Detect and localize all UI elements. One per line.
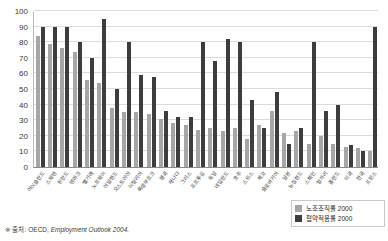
bar-union-density [85, 80, 89, 167]
x-axis-tick-label: 폴란드 [327, 170, 341, 185]
y-axis-tick-label: 90 [19, 24, 28, 32]
x-axis-tick-label: 미국 [342, 170, 353, 181]
bar-coverage-rate [139, 75, 143, 167]
bar-coverage-rate [78, 42, 82, 167]
bar-group [343, 12, 355, 167]
x-axis-tick-label: 프랑스 [364, 170, 378, 185]
bar-union-density [60, 48, 64, 167]
bar-coverage-rate [115, 89, 119, 167]
bar-coverage-rate [250, 100, 254, 167]
bar-coverage-rate [312, 42, 316, 167]
x-axis-tick-label: 아이슬란드 [25, 170, 45, 193]
source-note: ※출처:OECD, Employment Outlook 2004. [5, 226, 129, 234]
x-axis-tick-label: 체코 [256, 170, 267, 181]
x-axis-tick-label: 스위스 [241, 170, 255, 185]
plot-area [33, 12, 378, 168]
y-axis-tick-label: 30 [19, 117, 28, 125]
bar-group [195, 12, 207, 167]
bar-coverage-rate [53, 27, 57, 167]
bar-coverage-rate [336, 105, 340, 167]
bar-union-density [368, 151, 372, 167]
chart-legend: 노조조직률 2000 협약적용률 2000 [291, 200, 385, 227]
bar-group [356, 12, 368, 167]
bar-group [331, 12, 343, 167]
bar-coverage-rate [349, 145, 353, 167]
gridline [34, 10, 378, 11]
bar-group [97, 12, 109, 167]
bar-union-density [122, 112, 126, 167]
bar-coverage-rate [299, 128, 303, 167]
bar-union-density [245, 139, 249, 167]
x-axis-tick-label: 스페인 [303, 170, 317, 185]
y-axis-tick-label: 10 [19, 148, 28, 156]
bar-union-density [307, 144, 311, 167]
bar-group [245, 12, 257, 167]
bar-group [306, 12, 318, 167]
chart-figure: 0102030405060708090100 아이슬란드스웨덴핀란드덴마크벨기에… [0, 0, 388, 241]
bar-group [121, 12, 133, 167]
bar-group [183, 12, 195, 167]
bar-union-density [159, 119, 163, 167]
bar-union-density [36, 36, 40, 167]
bar-group [134, 12, 146, 167]
source-star-icon: ※ [5, 226, 10, 233]
bar-coverage-rate [41, 27, 45, 167]
bar-group [257, 12, 269, 167]
bar-union-density [331, 144, 335, 167]
bar-coverage-rate [226, 39, 230, 167]
bar-union-density [110, 108, 114, 167]
bar-coverage-rate [275, 92, 279, 167]
bar-coverage-rate [90, 58, 94, 167]
bar-series-container [34, 12, 378, 167]
bar-union-density [344, 147, 348, 167]
y-axis: 0102030405060708090100 [0, 12, 31, 168]
bar-group [368, 12, 380, 167]
bar-union-density [134, 112, 138, 167]
bar-union-density [270, 111, 274, 167]
bar-union-density [221, 131, 225, 167]
bar-group [146, 12, 158, 167]
legend-swatch-coverage-rate [295, 215, 302, 222]
y-axis-tick-label: 80 [19, 39, 28, 47]
bar-group [60, 12, 72, 167]
bar-union-density [48, 44, 52, 167]
bar-coverage-rate [201, 42, 205, 167]
bar-group [208, 12, 220, 167]
bar-coverage-rate [164, 111, 168, 167]
bar-union-density [319, 136, 323, 167]
x-axis-tick-label: 헝가리 [315, 170, 329, 185]
bar-union-density [184, 125, 188, 167]
bar-group [158, 12, 170, 167]
bar-coverage-rate [287, 144, 291, 167]
bar-union-density [294, 131, 298, 167]
legend-item-union-density: 노조조직률 2000 [295, 204, 381, 213]
y-axis-tick-label: 20 [19, 133, 28, 141]
bar-union-density [208, 128, 212, 167]
bar-union-density [73, 52, 77, 167]
bar-union-density [233, 128, 237, 167]
bar-group [294, 12, 306, 167]
bar-coverage-rate [373, 27, 377, 167]
bar-coverage-rate [361, 151, 365, 167]
source-publication: Employment Outlook 2004. [51, 226, 129, 233]
clipped-title-strip [70, 0, 285, 7]
bar-coverage-rate [262, 128, 266, 167]
bar-group [269, 12, 281, 167]
bar-coverage-rate [65, 27, 69, 167]
bar-group [319, 12, 331, 167]
bar-group [48, 12, 60, 167]
bar-union-density [97, 83, 101, 167]
y-axis-tick-label: 50 [19, 86, 28, 94]
bar-union-density [147, 114, 151, 167]
legend-label-coverage-rate: 협약적용률 2000 [306, 215, 352, 222]
bar-group [220, 12, 232, 167]
legend-label-union-density: 노조조직률 2000 [306, 205, 352, 212]
bar-coverage-rate [102, 19, 106, 167]
source-label: 출처: [12, 226, 26, 233]
x-axis-tick-label: 핀란드 [56, 170, 70, 185]
bar-union-density [171, 123, 175, 167]
source-organization: OECD, [28, 226, 49, 233]
y-axis-tick-label: 0 [24, 164, 28, 172]
legend-item-coverage-rate: 협약적용률 2000 [295, 214, 381, 223]
legend-swatch-union-density [295, 205, 302, 212]
